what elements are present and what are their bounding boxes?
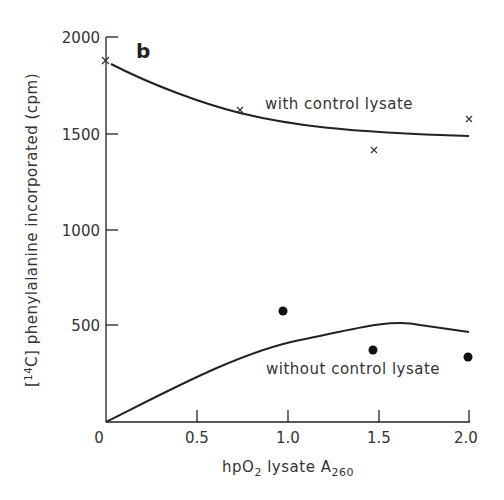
- y-tick-label: 500: [71, 317, 100, 335]
- chart-svg: 2000 1500 1000 500 0 0.5 1.0 1.5 2.0 b w…: [0, 0, 504, 500]
- y-tick-label: 1500: [62, 126, 100, 144]
- x-tick-label: 0.5: [185, 429, 209, 447]
- panel-label: b: [136, 39, 150, 63]
- without-control-markers: [279, 307, 473, 362]
- y-tick-label: 1000: [62, 222, 100, 240]
- series-label-without-control: without control lysate: [266, 360, 440, 378]
- x-tick-label: 0: [94, 429, 104, 447]
- y-axis-label: [14C] phenylalanine incorporated (cpm): [23, 73, 41, 387]
- x-tick-label: 1.0: [276, 429, 300, 447]
- x-axis-label: hpO2 lysate A260: [222, 458, 354, 479]
- x-tick-label: 1.5: [367, 429, 391, 447]
- y-tick-label: 2000: [62, 29, 100, 47]
- series-label-with-control: with control lysate: [265, 95, 413, 113]
- x-tick-label: 2.0: [454, 429, 478, 447]
- chart: 2000 1500 1000 500 0 0.5 1.0 1.5 2.0 b w…: [0, 0, 504, 500]
